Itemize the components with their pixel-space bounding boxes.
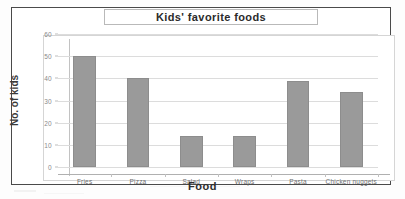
y-tick-label: 30	[30, 97, 52, 104]
gridline	[58, 123, 378, 124]
gridline	[58, 56, 378, 57]
y-tick-label: 40	[30, 75, 52, 82]
x-tick-mark	[378, 174, 379, 177]
y-tick-label: 20	[30, 119, 52, 126]
scanned-page: 0102030405060 FriesPizzaSaladWrapsPastaC…	[0, 0, 405, 199]
x-tick-mark	[165, 174, 166, 177]
bar	[340, 92, 362, 167]
y-tick-mark	[55, 100, 58, 101]
x-tick-mark	[218, 174, 219, 177]
y-axis-line	[69, 39, 70, 176]
y-tick-label: 50	[30, 53, 52, 60]
gridline	[58, 78, 378, 79]
chart-title-box: Kids' favorite foods	[104, 9, 318, 25]
bar	[127, 78, 149, 167]
y-tick-mark	[55, 78, 58, 79]
y-tick-label: 60	[30, 31, 52, 38]
x-tick-mark	[325, 174, 326, 177]
gridline	[58, 34, 378, 35]
x-tick-mark	[111, 174, 112, 177]
bar	[233, 136, 255, 167]
y-tick-mark	[55, 167, 58, 168]
y-axis-title: No. of kids	[8, 62, 22, 138]
x-tick-mark	[271, 174, 272, 177]
chart-outer-frame: 0102030405060 FriesPizzaSaladWrapsPastaC…	[11, 7, 391, 185]
gridline	[58, 145, 378, 146]
x-axis-title: Food	[0, 180, 405, 192]
chart-title: Kids' favorite foods	[156, 11, 266, 23]
x-axis-line	[58, 174, 390, 175]
bar	[287, 81, 309, 167]
y-tick-label: 0	[30, 164, 52, 171]
bar	[73, 56, 95, 167]
scan-artifact	[44, 193, 84, 194]
y-tick-mark	[55, 122, 58, 123]
gridline	[58, 101, 378, 102]
y-tick-mark	[55, 56, 58, 57]
y-tick-mark	[55, 34, 58, 35]
bar	[180, 136, 202, 167]
y-tick-label: 10	[30, 141, 52, 148]
gridline	[58, 167, 378, 168]
y-tick-mark	[55, 144, 58, 145]
y-axis-title-text: No. of kids	[10, 74, 21, 125]
